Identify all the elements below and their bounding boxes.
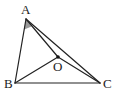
segment-OC: [58, 57, 100, 83]
segment-BO: [15, 57, 58, 83]
triangle-diagram: A B C O: [0, 0, 118, 98]
segment-AO: [26, 19, 58, 57]
label-A: A: [21, 2, 31, 17]
segment-AC: [26, 19, 100, 83]
label-C: C: [103, 76, 112, 91]
segment-AB: [15, 19, 26, 83]
label-B: B: [4, 76, 13, 91]
label-O: O: [53, 59, 62, 74]
